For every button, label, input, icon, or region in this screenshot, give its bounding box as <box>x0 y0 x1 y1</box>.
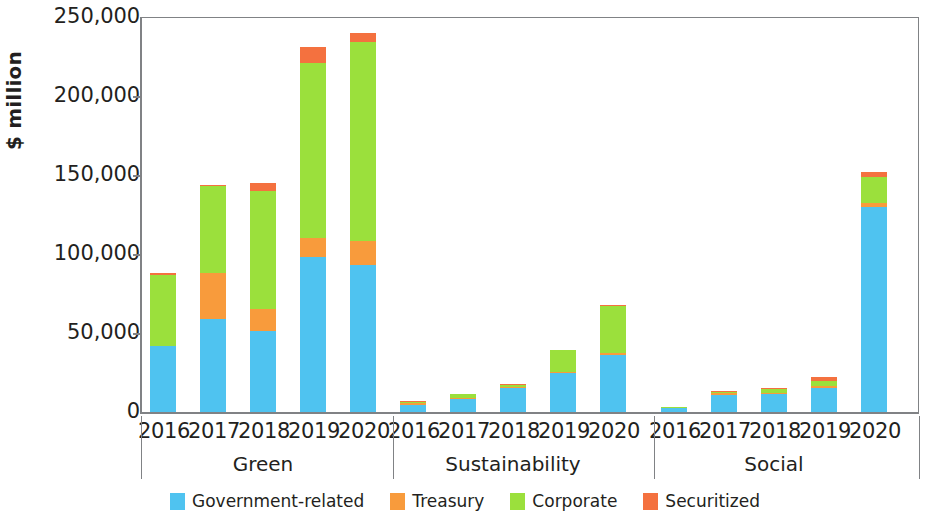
x-tick-label-social-2020: 2020 <box>849 420 899 442</box>
bar-segment-treasury <box>350 241 376 265</box>
bar-segment-government-related <box>450 399 476 412</box>
x-axis-line <box>140 412 919 414</box>
bar-social-2020[interactable] <box>861 172 887 412</box>
group-separator <box>919 416 920 479</box>
bar-segment-government-related <box>350 265 376 412</box>
bar-social-2016[interactable] <box>661 407 687 412</box>
bar-segment-corporate <box>350 42 376 241</box>
bar-green-2018[interactable] <box>250 183 276 412</box>
bar-social-2019[interactable] <box>811 377 837 412</box>
bar-green-2019[interactable] <box>300 47 326 412</box>
bar-segment-corporate <box>150 275 176 346</box>
legend-label: Treasury <box>412 492 484 510</box>
bar-segment-treasury <box>300 238 326 257</box>
bar-segment-treasury <box>250 309 276 331</box>
x-tick-label-sustainability-2017: 2017 <box>438 420 488 442</box>
x-tick-label-green-2019: 2019 <box>288 420 338 442</box>
bar-segment-government-related <box>861 207 887 412</box>
group-separator <box>654 416 655 479</box>
bar-segment-government-related <box>600 355 626 412</box>
bar-segment-securitized <box>350 33 376 42</box>
bar-segment-government-related <box>661 408 687 412</box>
legend-swatch-icon <box>170 493 185 510</box>
bar-sustainability-2019[interactable] <box>550 350 576 412</box>
legend-swatch-icon <box>510 493 525 510</box>
y-tick-label: 50,000 <box>22 322 140 343</box>
bar-segment-government-related <box>811 388 837 412</box>
group-separator <box>141 416 142 479</box>
x-tick-label-green-2020: 2020 <box>338 420 388 442</box>
chart-legend: Government-relatedTreasuryCorporateSecur… <box>0 492 930 510</box>
legend-swatch-icon <box>390 493 405 510</box>
x-tick-label-green-2018: 2018 <box>238 420 288 442</box>
x-tick-label-social-2017: 2017 <box>699 420 749 442</box>
bar-segment-corporate <box>600 306 626 353</box>
legend-label: Securitized <box>665 492 760 510</box>
y-tick-label: 200,000 <box>22 85 140 106</box>
legend-item-corporate[interactable]: Corporate <box>510 492 617 510</box>
legend-item-government-related[interactable]: Government-related <box>170 492 364 510</box>
x-tick-label-sustainability-2016: 2016 <box>388 420 438 442</box>
bar-segment-corporate <box>861 177 887 204</box>
bar-segment-treasury <box>200 273 226 319</box>
bar-social-2018[interactable] <box>761 388 787 412</box>
bar-segment-government-related <box>400 405 426 412</box>
y-axis-ticks: 050,000100,000150,000200,000250,000 <box>0 0 140 519</box>
bar-segment-government-related <box>300 257 326 412</box>
legend-swatch-icon <box>643 493 658 510</box>
bar-segment-government-related <box>761 394 787 412</box>
group-separator <box>393 416 394 479</box>
x-tick-label-social-2016: 2016 <box>649 420 699 442</box>
x-tick-label-social-2019: 2019 <box>799 420 849 442</box>
legend-label: Corporate <box>532 492 617 510</box>
bar-green-2017[interactable] <box>200 185 226 413</box>
bar-segment-government-related <box>711 395 737 412</box>
x-tick-label-sustainability-2018: 2018 <box>488 420 538 442</box>
bar-segment-government-related <box>250 331 276 412</box>
bar-sustainability-2017[interactable] <box>450 394 476 412</box>
y-tick-label: 100,000 <box>22 243 140 264</box>
bar-social-2017[interactable] <box>711 391 737 412</box>
bar-segment-government-related <box>550 373 576 412</box>
x-tick-label-sustainability-2019: 2019 <box>538 420 588 442</box>
legend-item-securitized[interactable]: Securitized <box>643 492 760 510</box>
bar-sustainability-2018[interactable] <box>500 384 526 412</box>
bar-sustainability-2016[interactable] <box>400 401 426 412</box>
x-tick-label-green-2017: 2017 <box>188 420 238 442</box>
x-tick-label-social-2018: 2018 <box>749 420 799 442</box>
y-tick-label: 0 <box>22 401 140 422</box>
bar-green-2020[interactable] <box>350 33 376 412</box>
y-tick-label: 250,000 <box>22 6 140 27</box>
y-tick-label: 150,000 <box>22 164 140 185</box>
bar-segment-government-related <box>200 319 226 412</box>
legend-item-treasury[interactable]: Treasury <box>390 492 484 510</box>
bar-sustainability-2020[interactable] <box>600 305 626 412</box>
x-tick-label-sustainability-2020: 2020 <box>588 420 638 442</box>
bar-segment-government-related <box>500 388 526 412</box>
x-tick-label-green-2016: 2016 <box>138 420 188 442</box>
stacked-bar-chart: $ million 050,000100,000150,000200,00025… <box>0 0 930 519</box>
bar-segment-corporate <box>550 350 576 372</box>
bar-segment-securitized <box>300 47 326 63</box>
bar-segment-government-related <box>150 346 176 412</box>
bar-segment-corporate <box>250 191 276 310</box>
legend-label: Government-related <box>192 492 364 510</box>
group-label-social: Social <box>621 454 927 475</box>
bar-green-2016[interactable] <box>150 273 176 412</box>
bar-segment-corporate <box>200 186 226 273</box>
bar-segment-securitized <box>250 183 276 191</box>
bar-segment-corporate <box>300 63 326 238</box>
bars-layer <box>141 17 919 412</box>
